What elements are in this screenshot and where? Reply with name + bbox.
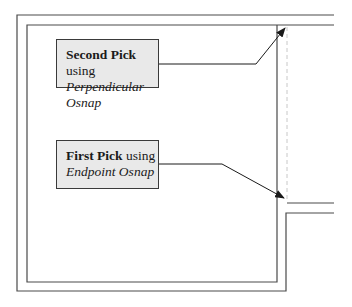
second-pick-title: Second Pick [66,47,136,62]
second-pick-subtitle: Perpendicular Osnap [66,79,158,111]
second-pick-leader-arrow [158,28,285,64]
first-pick-leader-arrow [158,164,284,198]
first-pick-subtitle: Endpoint Osnap [66,164,158,180]
second-pick-suffix: using [66,63,95,78]
second-pick-callout: Second Pick using Perpendicular Osnap [56,39,159,88]
floor-plan-drawing [0,0,352,307]
first-pick-title: First Pick [66,148,123,163]
first-pick-suffix: using [123,148,156,163]
first-pick-callout: First Pick using Endpoint Osnap [56,140,159,189]
